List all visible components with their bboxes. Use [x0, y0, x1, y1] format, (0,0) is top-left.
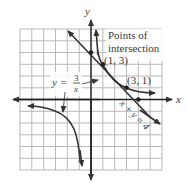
point-0-4: [89, 50, 94, 55]
point-4-0: [136, 97, 141, 102]
hyperbola-label-denominator: x: [73, 84, 78, 94]
hyperbola-left-branch-bottom: [80, 150, 82, 166]
hyperbola-label-numerator: 3: [74, 73, 79, 83]
point2-label: (3, 1): [127, 74, 151, 87]
y-axis-label: y: [84, 5, 90, 17]
x-axis-label: x: [175, 93, 181, 105]
point1-label: (1, 3): [104, 54, 128, 67]
annotation-title-line1: Points of: [108, 29, 148, 41]
hyperbola-label-lhs: y =: [51, 76, 67, 88]
pointer-arrow-right: [82, 80, 98, 84]
point-3-1: [124, 86, 129, 91]
hyperbola-left-branch: [28, 106, 80, 160]
hyperbola-right-branch-top: [96, 30, 98, 55]
coordinate-graph: x y Points of intersection (1, 3) (3, 1)…: [0, 0, 187, 189]
annotation-title-line2: intersection: [108, 42, 160, 54]
